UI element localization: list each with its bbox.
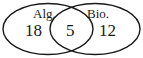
- count-intersection: 5: [66, 21, 75, 40]
- count-biology-only: 12: [99, 21, 116, 40]
- set-label-algebra: Alg.: [33, 6, 56, 21]
- count-algebra-only: 18: [25, 21, 42, 40]
- venn-diagram: Alg. 18 5 Bio. 12: [0, 0, 143, 58]
- set-label-biology: Bio.: [87, 6, 109, 21]
